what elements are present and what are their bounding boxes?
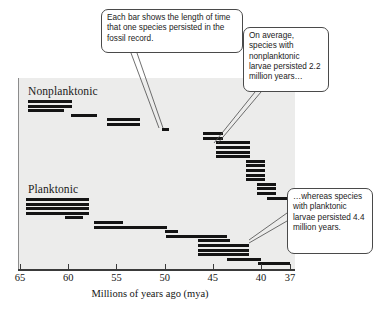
callout-bar-meaning: Each bar shows the length of time that o… bbox=[101, 9, 243, 53]
callout-nonplanktonic-average: On average, species with nonplanktonic l… bbox=[243, 27, 329, 92]
species-duration-chart: Nonplanktonic Planktonic 65605550454037 … bbox=[0, 0, 385, 315]
callout-planktonic-average: …whereas species with planktonic larvae … bbox=[287, 188, 373, 254]
